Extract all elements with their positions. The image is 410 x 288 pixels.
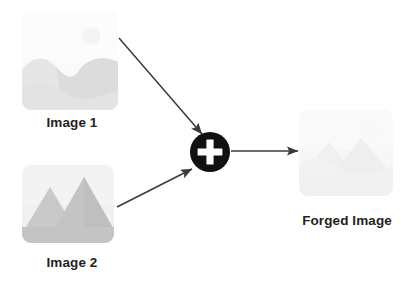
plus-circle-icon <box>190 132 230 172</box>
image2-label: Image 2 <box>0 255 144 270</box>
image1-thumbnail[interactable] <box>22 10 118 110</box>
mountains-photo-icon <box>22 165 114 243</box>
diagram-canvas: Image 1 Image 2 Forged <box>0 0 410 288</box>
landscape-photo-icon <box>22 10 118 110</box>
forged-image-thumbnail[interactable] <box>299 110 393 196</box>
plus-circle-operator[interactable] <box>190 132 230 172</box>
forged-image-label: Forged Image <box>275 213 410 228</box>
edge-image2-operator <box>117 169 192 207</box>
image2-thumbnail[interactable] <box>22 165 114 243</box>
composite-photo-icon <box>299 110 393 196</box>
image1-label: Image 1 <box>0 115 144 130</box>
